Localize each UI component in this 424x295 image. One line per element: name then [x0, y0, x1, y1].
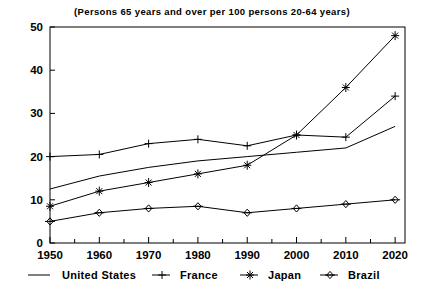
y-tick-label: 30 — [30, 107, 43, 119]
chart-legend: United StatesFranceJapanBrazil — [28, 269, 380, 281]
datapoint-brazil-2010 — [341, 201, 351, 208]
datapoint-brazil-2000 — [292, 205, 302, 212]
legend-item-brazil[interactable]: Brazil — [320, 269, 380, 281]
chart-figure: (Persons 65 years and over per 100 perso… — [0, 0, 424, 295]
y-tick-label: 20 — [30, 151, 43, 163]
x-axis-tick-labels: 19501960197019801990200020102020 — [37, 249, 408, 261]
data-series-group — [45, 31, 400, 225]
datapoint-japan-2010 — [342, 83, 350, 92]
y-tick-label: 40 — [30, 64, 43, 76]
datapoint-brazil-1990 — [242, 209, 252, 216]
legend-label: United States — [62, 269, 136, 281]
datapoint-brazil-1960 — [94, 209, 104, 216]
x-tick-label: 1970 — [136, 249, 162, 261]
y-tick-label: 0 — [37, 237, 43, 249]
datapoint-brazil-1970 — [144, 205, 154, 212]
x-tick-label: 1950 — [37, 249, 63, 261]
legend-label: France — [180, 269, 218, 281]
datapoint-france-1960 — [95, 150, 103, 158]
datapoint-japan-1980 — [194, 169, 202, 178]
chart-plot-svg: 01020304050 1950196019701980199020002010… — [0, 0, 424, 295]
series-brazil — [45, 196, 400, 225]
legend-label: Brazil — [348, 269, 380, 281]
legend-label: Japan — [268, 269, 301, 281]
legend-marker-plus — [158, 271, 166, 279]
datapoint-france-1970 — [145, 140, 153, 148]
datapoint-france-1990 — [243, 142, 251, 150]
legend-marker-star — [246, 271, 254, 280]
y-tick-label: 50 — [30, 21, 43, 33]
x-tick-label: 1980 — [185, 249, 211, 261]
y-axis-tick-labels: 01020304050 — [30, 21, 43, 249]
y-tick-label: 10 — [30, 194, 43, 206]
datapoint-japan-1970 — [145, 178, 153, 187]
legend-item-japan[interactable]: Japan — [240, 269, 301, 281]
datapoint-japan-1990 — [243, 161, 251, 170]
series-japan — [46, 31, 399, 211]
datapoint-japan-2000 — [293, 131, 301, 140]
legend-marker-diamond — [325, 271, 335, 278]
datapoint-japan-1950 — [46, 202, 54, 211]
datapoint-japan-2020 — [391, 31, 399, 40]
legend-item-united-states[interactable]: United States — [28, 269, 136, 281]
datapoint-brazil-1980 — [193, 203, 203, 210]
x-tick-label: 1960 — [87, 249, 113, 261]
series-france — [46, 92, 399, 160]
x-tick-label: 2020 — [382, 249, 408, 261]
x-tick-label: 2010 — [333, 249, 359, 261]
x-tick-label: 1990 — [234, 249, 260, 261]
datapoint-france-1980 — [194, 135, 202, 143]
datapoint-japan-1960 — [95, 187, 103, 196]
datapoint-france-1950 — [46, 153, 54, 161]
series-united-states — [50, 126, 395, 189]
legend-item-france[interactable]: France — [152, 269, 218, 281]
axis-ticks — [50, 27, 395, 243]
datapoint-brazil-2020 — [390, 196, 400, 203]
x-tick-label: 2000 — [284, 249, 310, 261]
